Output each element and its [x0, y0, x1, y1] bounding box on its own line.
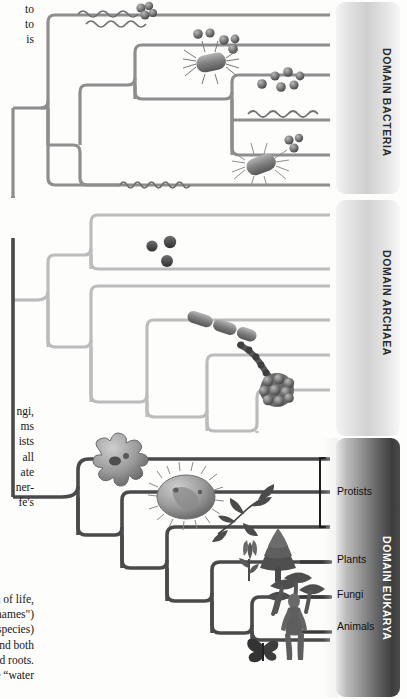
body-text-top: to to is: [0, 2, 34, 48]
domain-label-archaea: DOMAIN ARCHAEA: [381, 250, 393, 356]
group-label-protists: Protists: [337, 485, 372, 497]
domain-label-bacteria: DOMAIN BACTERIA: [381, 48, 393, 157]
group-label-fungi: Fungi: [337, 588, 363, 600]
group-label-plants: Plants: [337, 553, 366, 565]
domain-label-eukarya: DOMAIN EUKARYA: [381, 536, 393, 640]
body-text-bottom: n of life, names") species) nd both rd r…: [0, 592, 34, 683]
organism-berry-cluster: [259, 373, 294, 407]
body-text-middle: ngi, ms ists all ate ner- fe's: [0, 404, 34, 510]
group-label-animals: Animals: [337, 620, 374, 632]
eukarya-group-shade: [300, 438, 338, 697]
